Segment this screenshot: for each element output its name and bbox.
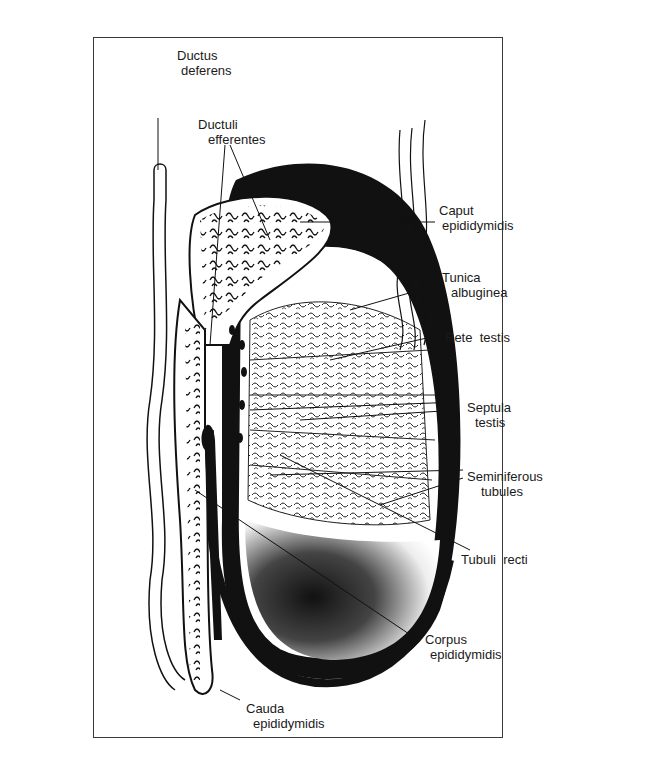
label-corpus-epididymidis: Corpus epididymidis [425, 632, 502, 662]
testis-illustration [0, 0, 668, 773]
label-seminiferous-tubules: Seminiferous tubules [467, 469, 543, 499]
label-cauda-epididymidis: Cauda epididymidis [246, 701, 325, 731]
label-tunica-albuginea: Tunica albuginea [442, 270, 507, 300]
label-ductus-deferens: Ductus deferens [177, 48, 232, 78]
label-tubuli-recti: Tubuli recti [461, 552, 528, 567]
label-ductuli-efferentes: Ductuli efferentes [198, 117, 266, 147]
label-caput-epididymidis: Caput epididymidis [439, 203, 514, 233]
label-septula-testis: Septula testis [467, 400, 511, 430]
epididymis-body-shape [174, 300, 222, 694]
label-rete-testis: Rete testis [445, 330, 510, 345]
